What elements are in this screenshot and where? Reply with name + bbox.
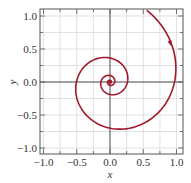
y-tick-label: −1.0 — [17, 142, 37, 154]
y-tick-label: 1.0 — [23, 10, 37, 22]
x-tick-label: −1.0 — [34, 156, 54, 168]
spiral-phase-plot: −1.0−0.50.00.51.0 −1.0−0.50.00.51.0 x y — [0, 0, 191, 183]
x-tick-label: −0.5 — [67, 156, 87, 168]
y-tick-label: 0.0 — [23, 76, 37, 88]
x-tick-label: 0.5 — [136, 156, 150, 168]
x-axis-title: x — [107, 168, 113, 180]
x-tick-label: 1.0 — [170, 156, 184, 168]
direction-arrow-icon — [167, 40, 171, 46]
y-axis-title: y — [6, 79, 18, 85]
y-tick-label: −0.5 — [17, 109, 37, 121]
y-tick-label: 0.5 — [23, 43, 37, 55]
spiral-trajectory-curve — [76, 10, 176, 129]
x-tick-label: 0.0 — [103, 156, 117, 168]
origin-point — [108, 80, 112, 84]
y-tick-labels: −1.0−0.50.00.51.0 — [17, 10, 37, 154]
x-tick-labels: −1.0−0.50.00.51.0 — [34, 156, 184, 168]
